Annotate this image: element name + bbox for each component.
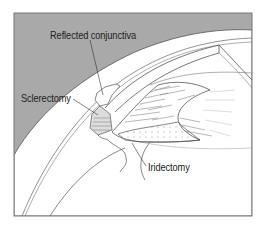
label-reflected-conjunctiva: Reflected conjunctiva [50, 29, 136, 41]
label-sclerectomy: Sclerectomy [21, 92, 71, 104]
label-iridectomy: Iridectomy [148, 161, 190, 173]
